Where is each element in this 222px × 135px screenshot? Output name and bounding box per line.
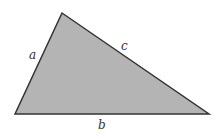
triangle-diagram: a c b <box>0 0 222 135</box>
side-label-c: c <box>121 39 128 53</box>
triangle-shape <box>15 13 209 114</box>
side-label-a: a <box>29 48 36 62</box>
side-label-b: b <box>98 118 106 132</box>
